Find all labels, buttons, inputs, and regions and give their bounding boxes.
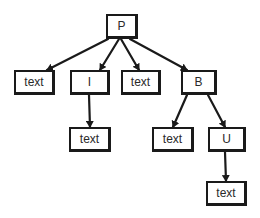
edge-B-U: [208, 95, 225, 127]
node-label: text: [131, 75, 150, 89]
node-label: text: [216, 186, 235, 200]
node-p: P: [106, 14, 138, 39]
node-label: U: [222, 132, 231, 146]
edge-layer: [47, 39, 226, 181]
edge-P-I: [100, 39, 119, 70]
node-text-4: text: [152, 127, 194, 152]
node-label: B: [194, 75, 202, 89]
edge-P-text1: [47, 39, 108, 70]
edge-I-text3: [89, 95, 90, 127]
edge-U-text5: [225, 152, 226, 181]
node-i: I: [70, 70, 110, 95]
edge-B-text4: [173, 95, 187, 127]
node-label: text: [80, 132, 99, 146]
node-u: U: [208, 127, 246, 152]
node-text-2: text: [121, 70, 161, 95]
node-label: text: [163, 132, 182, 146]
node-text-5: text: [206, 181, 247, 206]
node-label: P: [117, 19, 125, 33]
node-b: B: [181, 70, 217, 95]
edge-P-B: [130, 39, 187, 70]
node-label: I: [88, 75, 91, 89]
node-label: text: [24, 75, 43, 89]
node-text-1: text: [14, 70, 55, 95]
node-text-3: text: [69, 127, 111, 152]
